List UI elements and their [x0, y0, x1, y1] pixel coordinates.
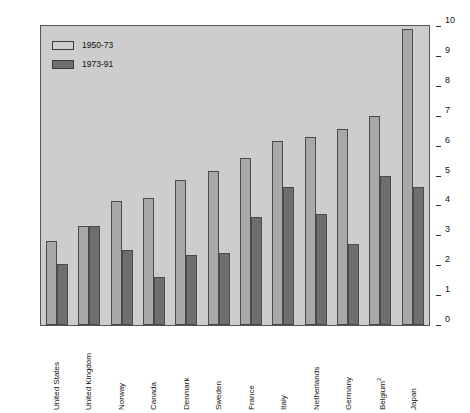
x-axis-tick-label: Netherlands [312, 330, 321, 410]
bar [78, 226, 89, 325]
x-label-cell: Germany [335, 330, 363, 410]
tick-mark [436, 86, 441, 87]
x-axis-tick-label: Denmark [182, 330, 191, 410]
x-axis-tick-label: United Kingdom [84, 330, 93, 410]
bar-group [369, 26, 391, 325]
legend-item: 1973-91 [52, 59, 113, 69]
x-axis-tick-label: Sweden [214, 330, 223, 410]
footnote-marker: 2 [376, 378, 382, 381]
x-axis-tick-label: United States [52, 330, 61, 410]
tick-mark [436, 265, 441, 266]
tick-mark [436, 295, 441, 296]
x-axis-tick-label: Belgium2 [376, 330, 387, 410]
bar [208, 171, 219, 325]
bar-group [143, 26, 165, 325]
bar [111, 201, 122, 325]
bar-group [208, 26, 230, 325]
tick-mark [436, 176, 441, 177]
x-axis-tick-label: Canada [149, 330, 158, 410]
legend-item-label: 1950-73 [82, 40, 113, 50]
tick-mark [436, 325, 441, 326]
x-label-cell: Denmark [172, 330, 200, 410]
bar [272, 141, 283, 325]
bar-group [175, 26, 197, 325]
x-axis-tick-label: Norway [117, 330, 126, 410]
x-label-cell: Canada [140, 330, 168, 410]
tick-mark [436, 146, 441, 147]
bar [143, 198, 154, 325]
bar-group [402, 26, 424, 325]
bar [122, 250, 133, 325]
bar [240, 158, 251, 325]
bar [186, 255, 197, 325]
bar [402, 29, 413, 325]
bar-chart: 012345678910 012345678910 1950-73 1973-9… [0, 0, 470, 413]
legend: 1950-73 1973-91 [52, 40, 113, 78]
x-label-cell: Netherlands [302, 330, 330, 410]
x-label-cell: Japan [400, 330, 428, 410]
legend-item-label: 1973-91 [82, 59, 113, 69]
bar [337, 129, 348, 325]
bar-group [111, 26, 133, 325]
bar-group [240, 26, 262, 325]
bar [46, 241, 57, 325]
y-axis-left: 012345678910 [0, 25, 34, 326]
tick-mark [436, 26, 441, 27]
x-label-cell: Italy [270, 330, 298, 410]
tick-mark [436, 56, 441, 57]
x-axis-labels: United StatesUnited KingdomNorwayCanadaD… [40, 330, 430, 410]
bar-group [305, 26, 327, 325]
bar [348, 244, 359, 325]
tick-mark [436, 116, 441, 117]
x-label-cell: Norway [107, 330, 135, 410]
bar-group [272, 26, 294, 325]
bar [413, 187, 424, 325]
tick-mark [436, 235, 441, 236]
legend-swatch-icon [52, 41, 74, 50]
bar [154, 277, 165, 325]
y-axis-right: 012345678910 [436, 25, 470, 326]
bar [57, 264, 68, 325]
bar [219, 253, 230, 325]
x-axis-tick-label: France [247, 330, 256, 410]
x-label-cell: United Kingdom [75, 330, 103, 410]
tick-mark [436, 205, 441, 206]
bar [305, 137, 316, 325]
bar [283, 187, 294, 325]
bar [316, 214, 327, 325]
x-label-cell: United States [42, 330, 70, 410]
x-label-cell: Sweden [205, 330, 233, 410]
x-axis-tick-label: Italy [279, 330, 288, 410]
bar [251, 217, 262, 325]
legend-swatch-icon [52, 60, 74, 69]
x-axis-tick-label: Japan [409, 330, 418, 410]
bar-group [337, 26, 359, 325]
x-axis-tick-label: Germany [344, 330, 353, 410]
x-label-cell: Belgium2 [367, 330, 395, 410]
bar [380, 176, 391, 326]
bar [369, 116, 380, 325]
x-label-cell: France [237, 330, 265, 410]
legend-item: 1950-73 [52, 40, 113, 50]
bar [89, 226, 100, 325]
bar [175, 180, 186, 325]
